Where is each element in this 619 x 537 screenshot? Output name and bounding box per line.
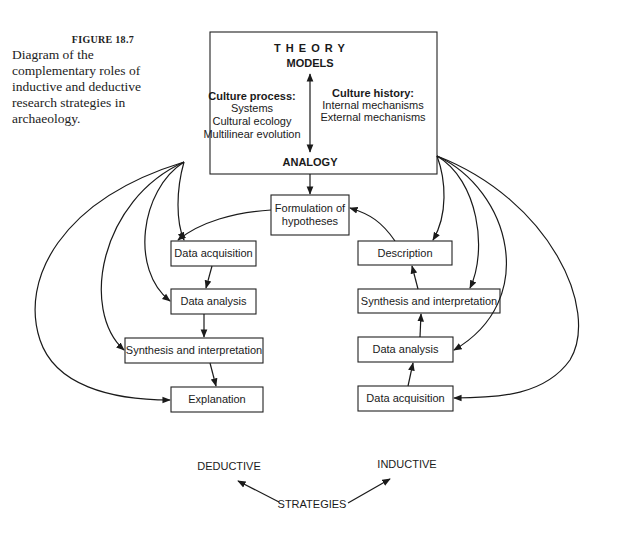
deductive-step-explanation: Explanation — [171, 387, 263, 412]
svg-text:Description: Description — [377, 247, 432, 259]
strategies-block: DEDUCTIVE INDUCTIVE STRATEGIES — [197, 458, 436, 510]
culture-process-item: Cultural ecology — [213, 115, 292, 127]
svg-text:Data acquisition: Data acquisition — [366, 392, 444, 404]
description-to-formulation-arrow — [350, 208, 395, 241]
inductive-step-data-analysis: Data analysis — [358, 337, 453, 362]
culture-process-block: Culture process: Systems Cultural ecolog… — [203, 90, 300, 140]
deductive-step-data-acquisition: Data acquisition — [171, 241, 256, 266]
svg-text:Explanation: Explanation — [188, 393, 246, 405]
inductive-column: Description Synthesis and interpretation… — [358, 241, 500, 411]
deductive-step-synthesis: Synthesis and interpretation — [125, 338, 263, 363]
culture-history-block: Culture history: Internal mechanisms Ext… — [320, 87, 426, 123]
formulation-line-1: Formulation of — [275, 202, 346, 214]
culture-history-item: External mechanisms — [320, 111, 426, 123]
svg-text:Data analysis: Data analysis — [180, 295, 247, 307]
analogy-label: ANALOGY — [283, 156, 339, 168]
svg-text:Data analysis: Data analysis — [372, 343, 439, 355]
culture-history-item: Internal mechanisms — [322, 99, 424, 111]
theory-title: T H E O R Y — [274, 42, 346, 54]
deductive-flow-arrow — [210, 363, 216, 386]
deductive-flow-arrow — [206, 266, 212, 288]
culture-process-heading: Culture process: — [208, 90, 295, 102]
strategies-to-inductive-arrow — [348, 479, 390, 503]
models-label: MODELS — [286, 57, 333, 69]
formulation-line-2: hypotheses — [282, 215, 339, 227]
strategies-label: STRATEGIES — [278, 498, 347, 510]
inductive-step-data-acquisition: Data acquisition — [358, 386, 453, 411]
inductive-step-synthesis: Synthesis and interpretation — [358, 289, 500, 313]
theory-to-deductive-curves — [35, 162, 184, 400]
strategies-to-deductive-arrow — [238, 481, 279, 502]
theory-to-inductive-curves — [433, 156, 579, 398]
svg-text:Synthesis and interpretation: Synthesis and interpretation — [126, 344, 262, 356]
svg-text:Data acquisition: Data acquisition — [174, 247, 252, 259]
svg-text:Synthesis and interpretation: Synthesis and interpretation — [361, 295, 497, 307]
theory-box: T H E O R Y MODELS Culture process: Syst… — [203, 32, 437, 174]
research-strategies-diagram: T H E O R Y MODELS Culture process: Syst… — [0, 0, 619, 537]
deductive-label: DEDUCTIVE — [197, 460, 261, 472]
culture-history-heading: Culture history: — [332, 87, 414, 99]
inductive-flow-arrow — [408, 363, 413, 386]
inductive-flow-arrow — [412, 266, 418, 289]
inductive-step-description: Description — [358, 241, 452, 265]
inductive-flow-arrow — [420, 314, 421, 337]
inductive-label: INDUCTIVE — [377, 458, 436, 470]
formulation-box: Formulation of hypotheses — [271, 195, 349, 235]
deductive-column: Data acquisition Data analysis Synthesis… — [125, 241, 263, 412]
culture-process-item: Systems — [231, 102, 274, 114]
culture-process-item: Multilinear evolution — [203, 128, 300, 140]
deductive-step-data-analysis: Data analysis — [171, 289, 256, 314]
formulation-to-deductive-arrow — [178, 210, 271, 240]
